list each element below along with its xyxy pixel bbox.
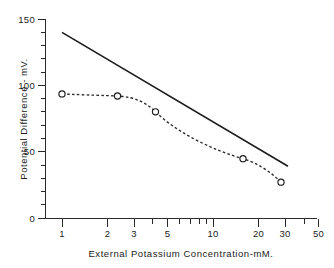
y-axis-ticks bbox=[38, 19, 46, 218]
x-tick-label-5: 5 bbox=[165, 228, 171, 239]
y-axis-title: Potential Difference - mV. bbox=[18, 58, 29, 180]
x-tick-label-2: 2 bbox=[105, 228, 111, 239]
x-tick-label-1: 1 bbox=[59, 228, 65, 239]
series-dashed-curve bbox=[59, 91, 284, 185]
data-point-marker bbox=[152, 109, 158, 115]
x-axis-ticks bbox=[62, 219, 319, 227]
chart-figure: 150 100 50 0 1 2 3 bbox=[0, 0, 334, 268]
x-axis-tick-labels: 1 2 3 5 10 20 30 50 bbox=[59, 228, 324, 239]
x-tick-label-3: 3 bbox=[131, 228, 137, 239]
data-point-marker bbox=[278, 179, 284, 185]
data-point-marker bbox=[114, 93, 120, 99]
y-tick-label-0: 0 bbox=[29, 213, 35, 224]
data-point-marker bbox=[240, 156, 246, 162]
series-nernst-path bbox=[62, 32, 288, 166]
x-tick-label-10: 10 bbox=[208, 228, 219, 239]
x-tick-label-30: 30 bbox=[280, 228, 291, 239]
data-point-marker bbox=[59, 91, 65, 97]
x-tick-label-20: 20 bbox=[253, 228, 264, 239]
y-tick-label-150: 150 bbox=[18, 14, 35, 25]
series-solid-line bbox=[62, 32, 288, 166]
series-measured-path bbox=[62, 94, 281, 182]
axis-lines bbox=[45, 19, 317, 219]
x-tick-label-50: 50 bbox=[313, 228, 324, 239]
x-axis-title: External Potassium Concentration-mM. bbox=[88, 248, 273, 259]
chart-svg: 150 100 50 0 1 2 3 bbox=[0, 0, 334, 268]
